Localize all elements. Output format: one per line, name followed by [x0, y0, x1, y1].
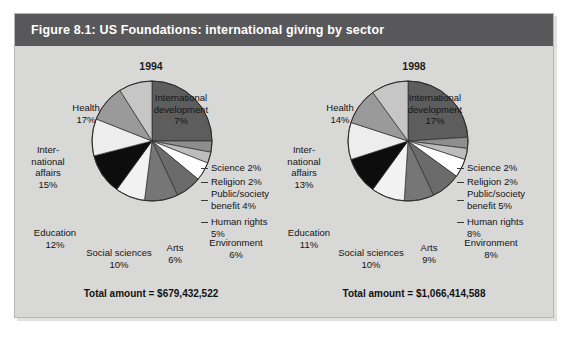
label-international-affairs-1998: Inter-nationalaffairs13%	[273, 144, 335, 190]
label-science-1998: Science 2%	[467, 162, 553, 174]
total-amount-1998: Total amount = $1,066,414,588	[273, 288, 555, 299]
label-international-development-1998: Internationaldevelopment17%	[387, 92, 483, 127]
label-environment-1998: Environment8%	[445, 237, 537, 260]
leader-line-public-society-1994	[201, 200, 208, 201]
label-social-sciences-1994: Social sciences10%	[73, 247, 165, 270]
label-environment-1994: Environment6%	[191, 237, 281, 260]
figure-header-bar: Figure 8.1: US Foundations: internationa…	[15, 14, 553, 46]
leader-line-science-1998	[457, 168, 464, 169]
chart-year-1998: 1998	[273, 60, 555, 72]
label-health-1998: Health14%	[305, 102, 375, 125]
figure-panel: Figure 8.1: US Foundations: internationa…	[14, 13, 554, 318]
chart-year-1994: 1994	[15, 60, 287, 72]
leader-line-religion-1998	[457, 182, 464, 183]
label-international-development-1994: Internationaldevelopment7%	[133, 92, 229, 127]
figure-title: Figure 8.1: US Foundations: internationa…	[31, 23, 384, 37]
label-human-rights-1998: Human rights8%	[467, 216, 555, 239]
leader-line-religion-1994	[201, 182, 208, 183]
total-amount-1994: Total amount = $679,432,522	[15, 288, 287, 299]
label-public-society-benefit-1998: Public/societybenefit 5%	[467, 188, 555, 211]
label-arts-1994: Arts6%	[155, 242, 195, 265]
pie-chart-1998: 1998 Health14% Internationaldevelopment1…	[273, 46, 555, 319]
leader-line-human-rights-1998	[457, 222, 464, 223]
label-international-affairs-1994: Inter-nationalaffairs15%	[17, 144, 79, 190]
label-religion-1998: Religion 2%	[467, 176, 553, 188]
label-social-sciences-1998: Social sciences10%	[325, 247, 417, 270]
label-health-1994: Health17%	[51, 102, 121, 125]
leader-line-human-rights-1994	[201, 222, 208, 223]
figure-root: Figure 8.1: US Foundations: internationa…	[0, 0, 570, 339]
leader-line-public-society-1998	[457, 200, 464, 201]
pie-chart-1994: 1994 Health17% Internationaldevelopment7…	[15, 46, 287, 319]
label-arts-1998: Arts9%	[409, 242, 449, 265]
leader-line-science-1994	[201, 168, 208, 169]
